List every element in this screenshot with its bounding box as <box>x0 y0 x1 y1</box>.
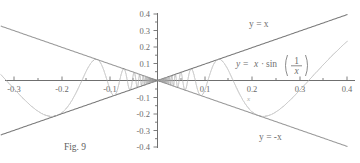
function-label-equals: = <box>243 59 248 69</box>
function-label-numerator: 1 <box>294 56 299 66</box>
function-label-dot: · <box>261 59 264 69</box>
annotation-y-equals-minus-x: y = -x <box>259 132 282 142</box>
y-tick-label: 0.4 <box>139 9 150 19</box>
function-label-factor: x <box>253 59 259 69</box>
paren-open-icon <box>286 55 288 76</box>
y-tick-label: 0.2 <box>139 42 150 52</box>
y-tick-label: -0.4 <box>137 142 151 152</box>
function-label-lhs: y <box>235 59 241 69</box>
x-ticks-group <box>14 77 347 81</box>
axes-group <box>5 13 355 148</box>
annotation-y-equals-x: y = x <box>249 19 269 29</box>
x-tick-label: 0.2 <box>247 84 258 94</box>
y-tick-label: 0.1 <box>139 59 150 69</box>
y-tick-label: -0.3 <box>137 126 150 136</box>
y-tick-label: -0.2 <box>137 109 150 119</box>
figure-container: -0.3 -0.2 -0.1 0.1 0.2 0.3 0.4 0.4 0.3 0… <box>0 0 360 163</box>
paren-close-icon <box>306 55 308 76</box>
annotation-point-x: x <box>246 95 251 103</box>
function-label-group: y = x · sin 1 x <box>235 55 308 76</box>
function-label-fn: sin <box>266 59 277 69</box>
function-label-denominator: x <box>293 66 299 76</box>
figure-caption: Fig. 9 <box>64 142 86 152</box>
y-tick-label: -0.1 <box>137 93 150 103</box>
x-tick-label: 0.4 <box>342 84 353 94</box>
y-tick-label: 0.3 <box>139 26 150 36</box>
plot-svg: -0.3 -0.2 -0.1 0.1 0.2 0.3 0.4 0.4 0.3 0… <box>0 0 360 163</box>
series-curve-x-sin-one-over-x <box>1 41 348 116</box>
x-tick-label: -0.2 <box>55 84 68 94</box>
